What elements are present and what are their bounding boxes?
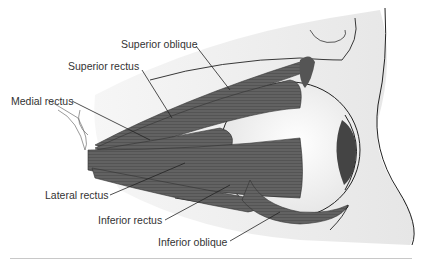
label-inferior-oblique: Inferior oblique bbox=[158, 236, 227, 248]
eye-muscle-diagram: Superior oblique Superior rectus Medial … bbox=[0, 0, 441, 266]
label-lateral-rectus: Lateral rectus bbox=[45, 189, 109, 201]
label-superior-rectus: Superior rectus bbox=[68, 60, 139, 72]
label-inferior-rectus: Inferior rectus bbox=[98, 214, 162, 226]
bottom-divider bbox=[10, 258, 412, 259]
label-medial-rectus: Medial rectus bbox=[11, 95, 73, 107]
label-superior-oblique: Superior oblique bbox=[121, 38, 197, 50]
nose-contour bbox=[48, 100, 86, 150]
illustration bbox=[0, 0, 441, 266]
